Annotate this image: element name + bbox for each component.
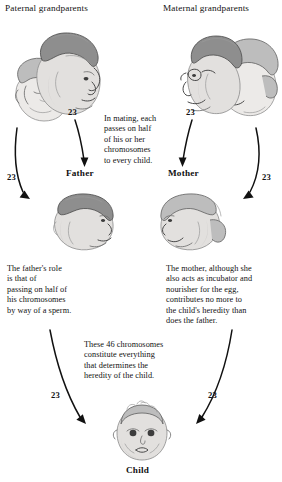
mother-role-line-3: nourisher for the egg, xyxy=(166,285,252,295)
mother-role-line-2: also acts as incubator and xyxy=(166,274,252,284)
child-label: Child xyxy=(126,465,149,475)
heredity-diagram: Paternal grandparents Maternal grandpare… xyxy=(0,0,282,482)
chromosome-count-paternal-to-father: 23 xyxy=(68,107,77,117)
mating-caption-line-3: of his or her xyxy=(104,135,156,145)
father-role-line-5: by way of a sperm. xyxy=(7,306,71,316)
child-total-line-1: These 46 chromosomes xyxy=(84,340,163,350)
paternal-grandparents-figure xyxy=(6,20,126,125)
mother-role-line-6: does the father. xyxy=(166,316,252,326)
father-role-line-4: his chromosomes xyxy=(7,295,71,305)
chromosome-count-mother-to-child: 23 xyxy=(208,390,217,400)
chromosome-count-maternal-to-child: 23 xyxy=(262,172,271,182)
chromosome-count-father-to-child: 23 xyxy=(51,390,60,400)
arrow-paternal-gp-to-child xyxy=(15,128,30,199)
mating-caption-line-4: chromosomes xyxy=(104,145,156,155)
maternal-grandparents-label: Maternal grandparents xyxy=(163,3,249,13)
mating-caption: In mating, each passes on half of his or… xyxy=(104,114,156,166)
arrow-maternal-gp-to-mother xyxy=(179,120,192,167)
mating-caption-line-2: passes on half xyxy=(104,124,156,134)
maternal-grandparents-figure xyxy=(166,20,282,125)
mating-caption-line-5: to every child. xyxy=(104,156,156,166)
child-total-line-2: constitute everything xyxy=(84,350,163,360)
father-role-line-3: passing on half of xyxy=(7,285,71,295)
mother-figure xyxy=(148,190,234,256)
mother-role-line-1: The mother, although she xyxy=(166,264,252,274)
child-total-caption: These 46 chromosomes constitute everythi… xyxy=(84,340,163,382)
mother-role-caption: The mother, although she also acts as in… xyxy=(166,264,252,326)
chromosome-count-paternal-to-child: 23 xyxy=(7,172,16,182)
father-figure xyxy=(40,190,126,256)
father-role-line-2: is that of xyxy=(7,274,71,284)
mother-role-line-5: the child's heredity than xyxy=(166,306,252,316)
child-total-line-3: that determines the xyxy=(84,361,163,371)
arrow-mother-to-child xyxy=(196,330,232,424)
child-figure xyxy=(107,400,177,466)
paternal-grandparents-label: Paternal grandparents xyxy=(5,3,88,13)
mother-label: Mother xyxy=(168,168,199,178)
child-total-line-4: heredity of the child. xyxy=(84,371,163,381)
arrow-paternal-gp-to-father xyxy=(75,120,88,167)
father-role-caption: The father's role is that of passing on … xyxy=(7,264,71,316)
arrow-father-to-child xyxy=(50,330,86,424)
arrow-maternal-gp-to-child xyxy=(243,128,259,199)
chromosome-count-maternal-to-mother: 23 xyxy=(186,107,195,117)
mating-caption-line-1: In mating, each xyxy=(104,114,156,124)
father-label: Father xyxy=(66,168,94,178)
father-role-line-1: The father's role xyxy=(7,264,71,274)
mother-role-line-4: contributes no more to xyxy=(166,295,252,305)
